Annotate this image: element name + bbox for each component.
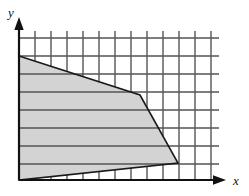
graph-figure: y x <box>0 0 249 196</box>
coordinate-plane: y x <box>0 0 249 196</box>
x-axis-label: x <box>232 173 239 188</box>
y-axis-label: y <box>6 5 14 20</box>
arrow-right-icon <box>213 175 226 184</box>
arrow-up-icon <box>14 17 23 30</box>
